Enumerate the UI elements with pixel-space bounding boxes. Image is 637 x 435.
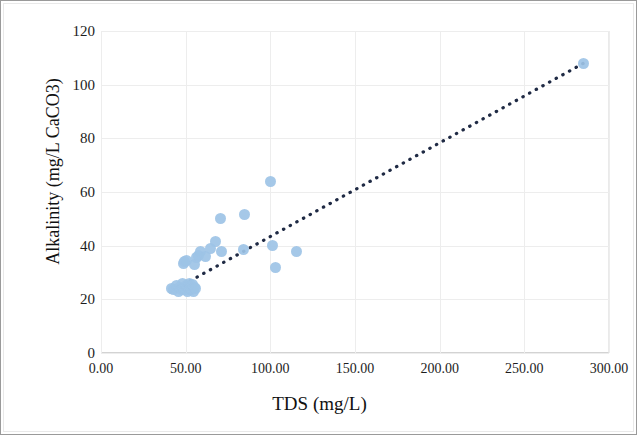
x-tick-label: 200.00 xyxy=(420,361,459,377)
scatter-point xyxy=(216,246,227,257)
y-tick-label: 120 xyxy=(39,23,95,40)
scatter-point xyxy=(578,58,589,69)
scatter-point xyxy=(265,176,276,187)
chart-figure: Alkalinity (mg/L CaCO3) 020406080100120 … xyxy=(0,0,637,435)
y-axis-ticks: 020406080100120 xyxy=(33,31,95,353)
scatter-point xyxy=(238,244,249,255)
y-tick-label: 0 xyxy=(39,345,95,362)
x-tick-label: 100.00 xyxy=(251,361,290,377)
x-tick-label: 0.00 xyxy=(89,361,114,377)
trendline-path xyxy=(170,63,583,292)
y-tick-label: 60 xyxy=(39,184,95,201)
x-axis-title: TDS (mg/L) xyxy=(1,393,637,415)
gridline-vertical xyxy=(609,31,610,353)
x-axis-ticks: 0.0050.00100.00150.00200.00250.00300.00 xyxy=(101,361,609,383)
scatter-point xyxy=(270,262,281,273)
x-tick-label: 150.00 xyxy=(336,361,375,377)
x-tick-label: 250.00 xyxy=(505,361,544,377)
y-tick-label: 100 xyxy=(39,76,95,93)
y-tick-label: 80 xyxy=(39,130,95,147)
scatter-point xyxy=(291,246,302,257)
gridline-horizontal xyxy=(101,353,609,354)
x-tick-label: 50.00 xyxy=(170,361,202,377)
y-tick-label: 40 xyxy=(39,237,95,254)
plot-area xyxy=(101,31,609,353)
trendline xyxy=(101,31,609,353)
y-tick-label: 20 xyxy=(39,291,95,308)
x-tick-label: 300.00 xyxy=(590,361,629,377)
